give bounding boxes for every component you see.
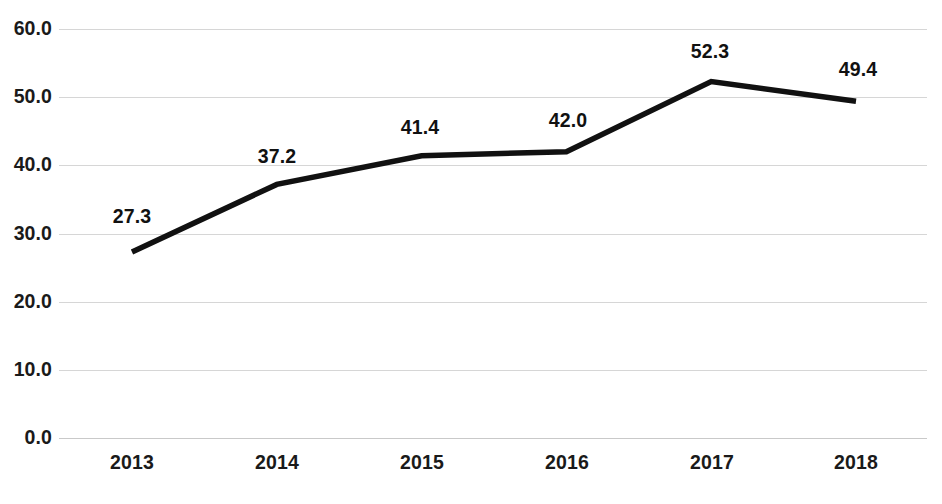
line-chart: 60.0 50.0 40.0 30.0 20.0 10.0 0.0 27.3 3… <box>0 0 942 504</box>
y-tick-label: 0.0 <box>0 428 52 448</box>
y-tick-label: 10.0 <box>0 360 52 380</box>
x-tick-label-2018: 2018 <box>796 452 916 473</box>
x-tick-label-2016: 2016 <box>507 452 627 473</box>
series-line <box>59 29 927 438</box>
data-label: 37.2 <box>217 147 337 167</box>
y-tick-label: 30.0 <box>0 224 52 244</box>
x-axis: 2013 2014 2015 2016 2017 2018 <box>59 452 927 482</box>
data-label: 52.3 <box>650 42 770 62</box>
gridline-0 <box>59 438 927 439</box>
data-label: 27.3 <box>72 207 192 227</box>
y-axis: 60.0 50.0 40.0 30.0 20.0 10.0 0.0 <box>0 29 52 438</box>
x-tick-label-2014: 2014 <box>217 452 337 473</box>
y-tick-label: 40.0 <box>0 156 52 176</box>
data-label: 41.4 <box>360 118 480 138</box>
data-label: 42.0 <box>508 111 628 131</box>
x-tick-label-2015: 2015 <box>362 452 482 473</box>
x-tick-label-2017: 2017 <box>652 452 772 473</box>
plot-area: 27.3 37.2 41.4 42.0 52.3 49.4 <box>59 29 927 438</box>
data-label: 49.4 <box>798 60 918 80</box>
y-tick-label: 50.0 <box>0 87 52 107</box>
y-tick-label: 20.0 <box>0 292 52 312</box>
x-tick-label-2013: 2013 <box>72 452 192 473</box>
y-tick-label: 60.0 <box>0 19 52 39</box>
